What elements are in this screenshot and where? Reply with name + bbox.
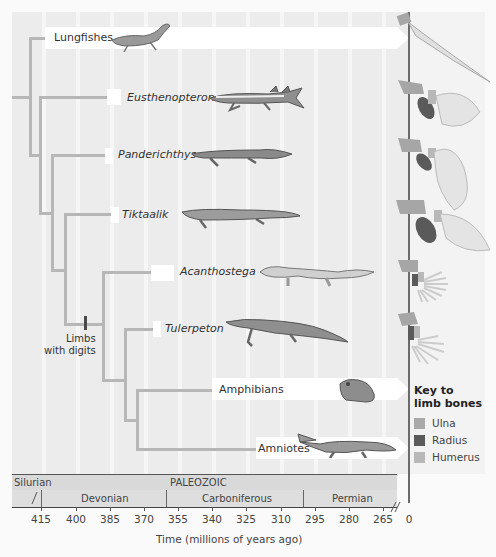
label-box	[105, 148, 113, 164]
label-box	[111, 207, 119, 223]
taxon-label-amphibians: Amphibians	[219, 383, 284, 397]
tick-label: 355	[168, 513, 188, 525]
period-carboniferous: Carboniferous	[202, 493, 272, 504]
lungfish-illustration	[106, 20, 176, 52]
branch-eusthenopteron	[39, 96, 107, 99]
key-item-radius: Radius	[414, 434, 467, 446]
tick	[178, 507, 179, 511]
key-title: Key to limb bones	[414, 384, 482, 410]
tick	[315, 507, 316, 511]
tick-label: 340	[202, 513, 222, 525]
limb-tulerpeton	[394, 310, 464, 366]
tick-label: 280	[339, 513, 359, 525]
branch-acanthostega	[102, 271, 152, 274]
tick	[281, 507, 282, 511]
tick-label: 265	[373, 513, 393, 525]
silurian-slash	[30, 491, 40, 505]
plot-area	[12, 12, 409, 474]
eusthenopteron-illustration	[208, 86, 308, 112]
humerus-swatch	[414, 452, 425, 463]
radius-swatch	[414, 435, 425, 446]
label-box	[153, 321, 161, 337]
node-7-vertical	[136, 389, 139, 450]
branch-amniotes	[136, 448, 256, 451]
taxon-label-tiktaalik: Tiktaalik	[122, 208, 168, 222]
key-label-ulna: Ulna	[432, 417, 456, 429]
taxon-label-panderichthys: Panderichthys	[118, 148, 196, 162]
tick	[76, 507, 77, 511]
tick-label: 310	[271, 513, 291, 525]
tick-label: 0	[406, 513, 413, 525]
branch-amphibians	[136, 389, 212, 392]
acanthostega-illustration	[258, 262, 376, 290]
tick-label: 400	[66, 513, 86, 525]
annotation-limbs: Limbs	[66, 333, 94, 345]
tick	[41, 507, 42, 511]
tick-label: 325	[236, 513, 256, 525]
label-box	[151, 265, 174, 281]
tick	[110, 507, 111, 511]
period-bar: Devonian Carboniferous Permian	[12, 490, 397, 508]
tick-label: 385	[100, 513, 120, 525]
tick	[383, 507, 384, 511]
node-6-vertical	[124, 328, 127, 421]
ulna-swatch	[414, 418, 425, 429]
era-paleozoic: PALEOZOIC	[170, 477, 227, 488]
branch-tulerpeton	[124, 328, 154, 331]
period-silurian: Silurian	[14, 477, 52, 488]
frog-illustration	[336, 376, 378, 404]
label-box	[107, 89, 121, 105]
key-label-radius: Radius	[432, 434, 467, 446]
branch-tiktaalik	[64, 213, 112, 216]
key-item-humerus: Humerus	[414, 451, 480, 463]
period-permian: Permian	[332, 493, 373, 504]
crocodile-illustration	[296, 430, 400, 458]
divider-silurian-devonian	[41, 490, 42, 507]
limb-tiktaalik	[394, 194, 494, 258]
key-label-humerus: Humerus	[432, 451, 480, 463]
node-5-to-6	[102, 379, 126, 382]
taxon-label-tulerpeton: Tulerpeton	[165, 322, 224, 336]
period-devonian: Devonian	[81, 493, 128, 504]
limb-eusthenopteron	[394, 76, 494, 136]
tick-label: 295	[305, 513, 325, 525]
key-title-line2: limb bones	[414, 397, 482, 410]
taxon-label-eusthenopteron: Eusthenopteron	[127, 91, 215, 105]
x-axis-label: Time (millions of years ago)	[156, 533, 302, 545]
divider-carboniferous-permian	[303, 490, 304, 507]
node-4-vertical	[64, 213, 67, 325]
annotation-with-digits: with digits	[44, 345, 96, 357]
key-title-line1: Key to	[414, 384, 482, 397]
divider-devonian-carboniferous	[166, 490, 167, 507]
node-2-vertical	[39, 96, 42, 213]
node-3-vertical	[51, 154, 54, 271]
node-1-vertical	[29, 37, 32, 156]
taxon-label-lungfishes: Lungfishes	[54, 31, 113, 45]
tiktaalik-illustration	[180, 206, 302, 230]
tick-label: 370	[134, 513, 154, 525]
tulerpeton-illustration	[224, 318, 350, 350]
limb-acanthostega	[394, 256, 454, 308]
axis-break-icon	[389, 500, 409, 514]
taxon-label-acanthostega: Acanthostega	[180, 265, 256, 279]
tick	[144, 507, 145, 511]
tick	[246, 507, 247, 511]
node-5-vertical	[102, 271, 105, 381]
tick	[212, 507, 213, 511]
tick	[349, 507, 350, 511]
tick-label: 415	[31, 513, 51, 525]
limbs-with-digits-marker	[84, 316, 87, 330]
key-item-ulna: Ulna	[414, 417, 456, 429]
branch-panderichthys	[51, 154, 105, 157]
panderichthys-illustration	[190, 146, 294, 168]
